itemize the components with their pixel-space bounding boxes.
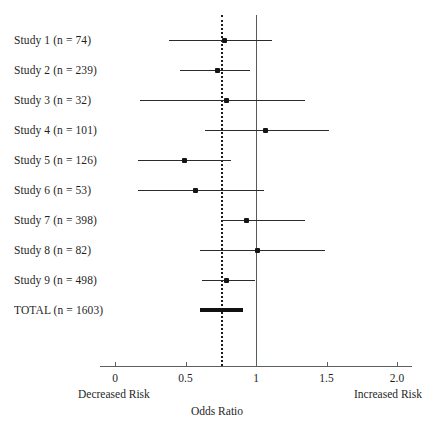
x-axis-tick — [397, 362, 398, 366]
x-axis-title: Odds Ratio — [0, 405, 434, 417]
confidence-interval-line — [222, 220, 305, 221]
point-estimate-marker — [244, 218, 249, 223]
x-axis-tick-label: 0.5 — [178, 372, 192, 384]
summary-estimate-bar — [200, 308, 244, 311]
point-estimate-marker — [182, 158, 187, 163]
plot-area: 00.511.52.0 — [0, 0, 434, 424]
x-axis-tick-label: 2.0 — [390, 372, 404, 384]
x-axis-tick-label: 0 — [112, 372, 118, 384]
x-axis-tick — [115, 362, 116, 366]
point-estimate-marker — [193, 188, 198, 193]
x-axis-tick-label: 1 — [253, 372, 259, 384]
confidence-interval-line — [200, 250, 325, 251]
point-estimate-marker — [255, 248, 260, 253]
x-axis-tick — [327, 362, 328, 366]
confidence-interval-line — [169, 40, 272, 41]
confidence-interval-line — [138, 190, 265, 191]
x-axis-line — [100, 366, 412, 367]
point-estimate-marker — [263, 128, 268, 133]
increased-risk-label: Increased Risk — [354, 388, 422, 400]
x-axis-tick — [186, 362, 187, 366]
point-estimate-marker — [224, 98, 229, 103]
forest-plot: Study 1 (n = 74)Study 2 (n = 239)Study 3… — [0, 0, 434, 424]
point-estimate-marker — [215, 68, 220, 73]
point-estimate-marker — [224, 278, 229, 283]
x-axis-tick-label: 1.5 — [319, 372, 333, 384]
confidence-interval-line — [140, 100, 305, 101]
point-estimate-marker — [222, 38, 227, 43]
decreased-risk-label: Decreased Risk — [78, 388, 150, 400]
x-axis-tick — [256, 362, 257, 366]
